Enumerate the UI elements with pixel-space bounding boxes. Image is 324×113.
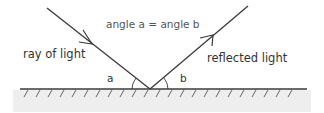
reflected-ray-label: reflected light [207, 53, 287, 65]
angle-a-label: a [107, 73, 113, 84]
angle-b-arc [164, 78, 168, 89]
reflection-diagram: angle a = angle b ray of light reflected… [0, 0, 324, 113]
diagram-title: angle a = angle b [106, 19, 200, 30]
angle-a-arc [132, 78, 136, 89]
incident-arrow-icon [79, 30, 92, 44]
incident-ray-label: ray of light [23, 49, 85, 61]
angle-b-label: b [180, 73, 187, 84]
